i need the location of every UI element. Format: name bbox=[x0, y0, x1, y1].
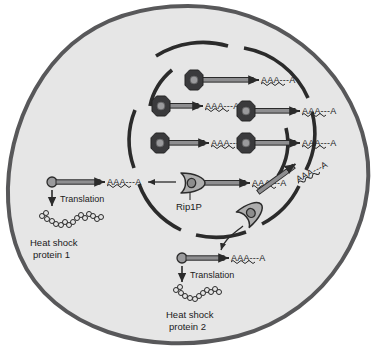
polya-label: AAA---A bbox=[205, 101, 239, 111]
polya-label: AAA---A bbox=[302, 106, 336, 116]
polya-label: AAA---A bbox=[107, 177, 141, 187]
heat-shock-protein-2-line1: Heat shock bbox=[166, 309, 214, 320]
heat-shock-protein-1-line2: protein 1 bbox=[33, 249, 70, 260]
polya-label: AAA---A bbox=[302, 138, 336, 148]
polya-label: AAA---A bbox=[261, 75, 295, 85]
heat-shock-protein-2-line2: protein 2 bbox=[169, 321, 206, 332]
rip1p-label: Rip1P bbox=[176, 201, 202, 212]
heat-shock-protein-1-line1: Heat shock bbox=[30, 237, 78, 248]
figure-canvas: AAA---A AAA---A AAA---A AAA---A AAA---A bbox=[0, 0, 380, 350]
polya-label: AAA---A bbox=[231, 253, 265, 263]
translation-label-left: Translation bbox=[60, 194, 104, 204]
translation-label-bottom: Translation bbox=[190, 270, 234, 280]
